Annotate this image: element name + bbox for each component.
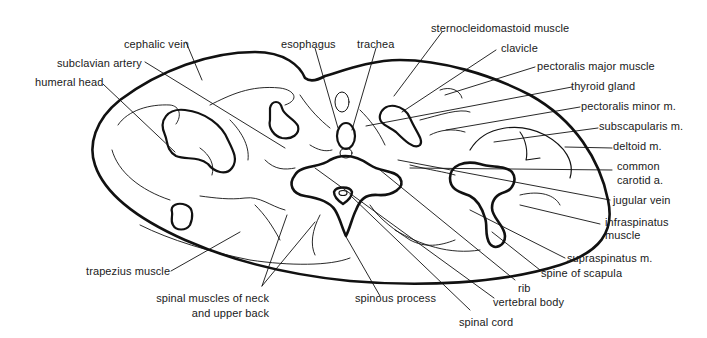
label-spine-of-scapula: spine of scapula	[541, 267, 622, 280]
vertebra	[292, 156, 402, 236]
label-supraspinatus: supraspinatus m.	[567, 252, 652, 265]
label-rib: rib	[518, 282, 531, 295]
small-bone-left	[172, 204, 193, 230]
humeral-head	[163, 110, 235, 173]
clavicle-right	[380, 106, 421, 147]
label-subscapularis: subscapularis m.	[599, 120, 683, 133]
label-thyroid-gland: thyroid gland	[571, 80, 635, 93]
label-pectoralis-major: pectoralis major muscle	[537, 60, 655, 73]
label-sternocleidomastoid: sternocleidomastoid muscle	[431, 22, 569, 35]
body-outline	[92, 52, 609, 284]
label-common-carotid-line2: carotid a.	[617, 174, 663, 187]
label-vertebral-body: vertebral body	[493, 296, 564, 309]
label-trachea: trachea	[357, 38, 394, 51]
label-pectoralis-minor: pectoralis minor m.	[581, 100, 676, 113]
label-trapezius: trapezius muscle	[86, 265, 170, 278]
label-spinal-muscles-line1: spinal muscles of neck	[154, 292, 269, 305]
clavicle-left	[270, 102, 299, 138]
label-jugular-vein: jugular vein	[613, 194, 670, 207]
label-deltoid: deltoid m.	[613, 140, 662, 153]
label-spinal-muscles-line2: and upper back	[154, 307, 269, 320]
cross-section-drawing	[0, 0, 707, 338]
label-common-carotid-line1: common	[617, 160, 660, 173]
label-humeral-head: humeral head	[35, 76, 103, 89]
label-infraspinatus-line1: infraspinatus	[605, 216, 669, 229]
label-esophagus: esophagus	[281, 38, 336, 51]
label-subclavian-artery: subclavian artery	[57, 57, 142, 70]
label-cephalic-vein: cephalic vein	[124, 38, 189, 51]
label-clavicle: clavicle	[501, 42, 538, 55]
leader-lines	[103, 32, 612, 310]
trachea-shape	[337, 123, 355, 149]
scapula-right	[450, 163, 514, 247]
label-spinous-process: spinous process	[355, 292, 436, 305]
label-spinal-cord: spinal cord	[459, 316, 513, 329]
label-infraspinatus-line2: muscle	[605, 229, 640, 242]
cross-section-figure: cephalic vein subclavian artery humeral …	[0, 0, 707, 338]
